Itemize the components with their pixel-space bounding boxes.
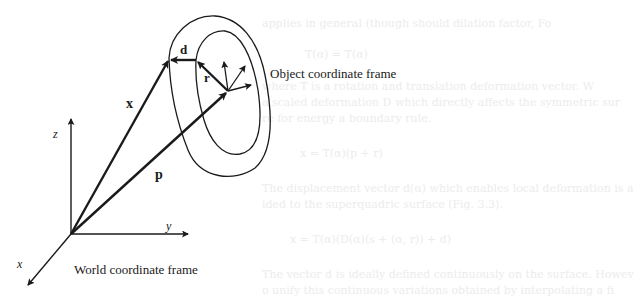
label-vector-r: r xyxy=(204,70,210,86)
x-axis xyxy=(28,234,71,285)
world-axes xyxy=(28,119,188,285)
vector-x-arrow xyxy=(71,61,168,234)
label-world-frame: World coordinate frame xyxy=(74,262,198,278)
label-vector-d: d xyxy=(180,42,187,58)
label-axis-y: y xyxy=(166,219,171,234)
object-contours xyxy=(169,16,270,176)
vector-p-arrow xyxy=(71,93,226,234)
object-axes xyxy=(224,62,251,91)
inner-contour xyxy=(196,31,260,154)
outer-contour xyxy=(169,16,270,176)
label-vector-p: p xyxy=(155,167,163,183)
label-object-frame: Object coordinate frame xyxy=(270,66,396,82)
label-axis-x: x xyxy=(17,257,22,272)
label-axis-z: z xyxy=(53,127,58,142)
label-vector-x: x xyxy=(126,96,133,112)
vector-r-arrow xyxy=(198,62,228,91)
vectors xyxy=(71,60,228,234)
